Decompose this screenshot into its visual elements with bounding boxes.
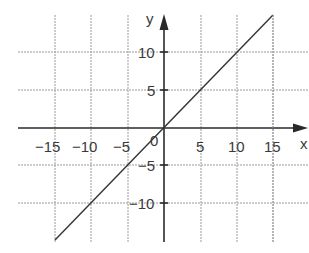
y-tick-label: 5 bbox=[147, 82, 155, 99]
y-tick-label: −10 bbox=[129, 195, 154, 212]
x-tick-label: 15 bbox=[264, 138, 281, 155]
y-axis-label: y bbox=[146, 10, 154, 27]
x-axis-label: x bbox=[300, 135, 308, 152]
x-tick-label: 10 bbox=[228, 138, 245, 155]
x-tick-label: −5 bbox=[113, 138, 130, 155]
x-tick-label: −10 bbox=[72, 138, 97, 155]
y-tick-label: 10 bbox=[138, 44, 155, 61]
x-tick-label: −15 bbox=[35, 138, 60, 155]
y-axis-arrow-icon bbox=[160, 14, 169, 30]
origin-label: 0 bbox=[150, 132, 158, 149]
y-tick-label: −5 bbox=[138, 157, 155, 174]
x-axis-arrow-icon bbox=[293, 124, 308, 133]
coordinate-plot: y x −15 −10 −5 0 5 10 15 10 5 −5 −10 bbox=[0, 0, 309, 253]
x-tick-label: 5 bbox=[196, 138, 204, 155]
